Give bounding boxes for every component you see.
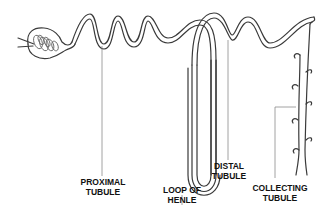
label-proximal-line2: TUBULE	[78, 187, 128, 197]
label-distal-line1: DISTAL	[206, 161, 252, 171]
glomerulus	[32, 34, 60, 52]
leader-collecting	[275, 107, 296, 178]
label-proximal-line1: PROXIMAL	[78, 177, 128, 187]
label-loop-of-henle: LOOP OF HENLE	[160, 185, 204, 205]
label-loop-line1: LOOP OF	[160, 185, 204, 195]
collecting-tubule	[292, 17, 314, 175]
arterioles	[18, 38, 34, 47]
label-collecting-line1: COLLECTING	[248, 183, 312, 193]
label-collecting-tubule: COLLECTING TUBULE	[248, 183, 312, 203]
label-distal-line2: TUBULE	[206, 171, 252, 181]
label-loop-line2: HENLE	[160, 195, 204, 205]
label-proximal-tubule: PROXIMAL TUBULE	[78, 177, 128, 197]
label-collecting-line2: TUBULE	[248, 193, 312, 203]
label-distal-tubule: DISTAL TUBULE	[206, 161, 252, 181]
leader-lines	[102, 40, 296, 205]
